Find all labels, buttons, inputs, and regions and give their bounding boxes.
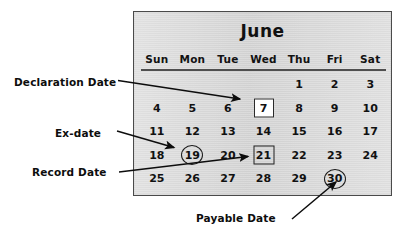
day-cell-ex-date: 19: [175, 144, 211, 168]
annotation-label-ex-date: Ex-date: [55, 127, 101, 139]
day-cell: 5: [175, 97, 211, 121]
day-number: 12: [185, 126, 200, 137]
day-cell: 27: [210, 167, 246, 191]
calendar-week-row: 25 26 27 28 29 30: [139, 167, 388, 191]
day-number: 16: [327, 126, 342, 137]
day-cell: 17: [352, 120, 388, 144]
figure-canvas: June Sun Mon Tue Wed Thu Fri Sat 1 2 3: [0, 0, 405, 238]
day-number: 2: [331, 79, 339, 90]
day-cell: 26: [175, 167, 211, 191]
day-cell-declaration-date: 7: [246, 97, 282, 121]
day-cell: [352, 167, 388, 191]
day-cell: 18: [139, 144, 175, 168]
annotation-label-declaration-date: Declaration Date: [14, 76, 116, 88]
day-cell: [246, 73, 282, 97]
day-number: 13: [220, 126, 235, 137]
day-number: 26: [185, 173, 200, 184]
day-cell: 6: [210, 97, 246, 121]
calendar-week-row: 1 2 3: [139, 73, 388, 97]
day-cell: 3: [352, 73, 388, 97]
day-number: 21: [256, 150, 271, 161]
day-cell: 8: [281, 97, 317, 121]
day-cell: 11: [139, 120, 175, 144]
calendar-weekday-header-row: Sun Mon Tue Wed Thu Fri Sat: [139, 53, 388, 65]
annotation-label-record-date: Record Date: [32, 166, 107, 178]
day-number: 29: [291, 173, 306, 184]
calendar-month-title: June: [134, 21, 391, 41]
day-number: 10: [363, 103, 378, 114]
day-cell: 16: [317, 120, 353, 144]
weekday-header-sun: Sun: [139, 53, 175, 65]
day-cell: 1: [281, 73, 317, 97]
weekday-header-tue: Tue: [210, 53, 246, 65]
day-cell: 23: [317, 144, 353, 168]
calendar-week-row: 18 19 20 21 22 23 24: [139, 144, 388, 168]
day-number: 14: [256, 126, 271, 137]
day-cell: 28: [246, 167, 282, 191]
day-cell-record-date: 21: [246, 144, 282, 168]
day-number: 11: [149, 126, 164, 137]
day-number: 24: [363, 150, 378, 161]
day-number: 28: [256, 173, 271, 184]
day-number: 25: [149, 173, 164, 184]
day-number: 17: [363, 126, 378, 137]
day-number: 20: [220, 150, 235, 161]
calendar-panel: June Sun Mon Tue Wed Thu Fri Sat 1 2 3: [133, 11, 392, 196]
weekday-header-sat: Sat: [352, 53, 388, 65]
day-number: 18: [149, 150, 164, 161]
annotation-label-payable-date: Payable Date: [196, 212, 276, 224]
calendar-grid: 1 2 3 4 5 6 7 8 9 10 11 12 13: [139, 73, 388, 191]
day-number: 23: [327, 150, 342, 161]
day-cell: 12: [175, 120, 211, 144]
day-number: 19: [185, 150, 200, 161]
weekday-header-mon: Mon: [175, 53, 211, 65]
day-number: 8: [295, 103, 303, 114]
day-cell: 20: [210, 144, 246, 168]
day-cell: 15: [281, 120, 317, 144]
day-cell: 25: [139, 167, 175, 191]
weekday-header-thu: Thu: [281, 53, 317, 65]
day-number: 4: [153, 103, 161, 114]
day-cell: [175, 73, 211, 97]
day-cell-payable-date: 30: [317, 167, 353, 191]
day-number: 9: [331, 103, 339, 114]
day-number: 6: [224, 103, 232, 114]
weekday-header-wed: Wed: [246, 53, 282, 65]
day-number: 5: [189, 103, 197, 114]
weekday-header-divider: [141, 69, 386, 71]
day-cell: 14: [246, 120, 282, 144]
day-cell: 22: [281, 144, 317, 168]
day-cell: 10: [352, 97, 388, 121]
day-cell: 29: [281, 167, 317, 191]
day-number: 27: [220, 173, 235, 184]
day-cell: [139, 73, 175, 97]
day-cell: 13: [210, 120, 246, 144]
day-cell: 9: [317, 97, 353, 121]
day-number: 22: [291, 150, 306, 161]
calendar-week-row: 4 5 6 7 8 9 10: [139, 97, 388, 121]
day-number: 15: [291, 126, 306, 137]
calendar-week-row: 11 12 13 14 15 16 17: [139, 120, 388, 144]
day-cell: 24: [352, 144, 388, 168]
day-number: 3: [366, 79, 374, 90]
day-number: 7: [260, 103, 268, 114]
day-number: 30: [327, 173, 342, 184]
day-cell: 4: [139, 97, 175, 121]
day-number: 1: [295, 79, 303, 90]
day-cell: 2: [317, 73, 353, 97]
day-cell: [210, 73, 246, 97]
weekday-header-fri: Fri: [317, 53, 353, 65]
